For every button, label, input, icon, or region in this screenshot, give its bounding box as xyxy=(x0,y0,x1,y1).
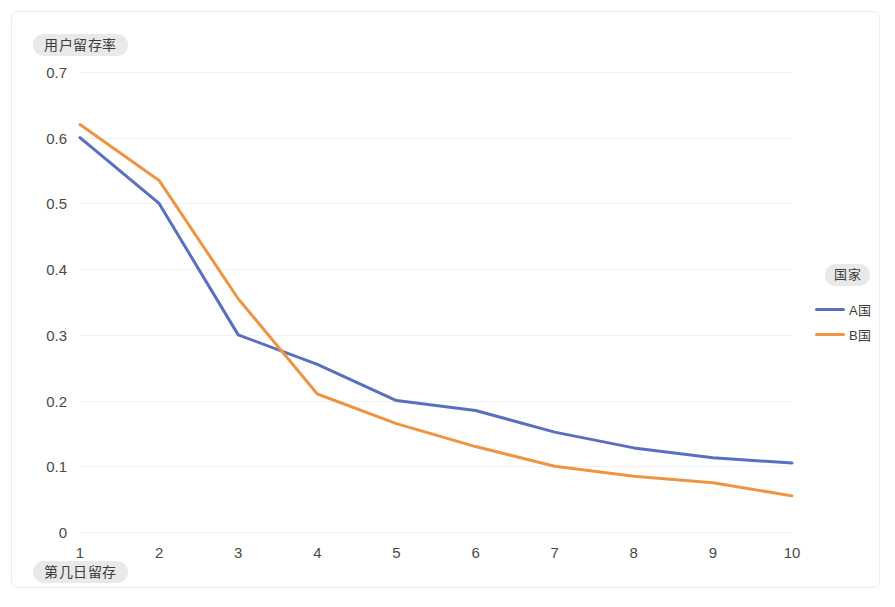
legend-swatch-icon xyxy=(815,308,845,311)
x-tick-label: 10 xyxy=(784,544,801,561)
series-line-B国 xyxy=(80,125,792,496)
series-lines xyxy=(80,72,792,532)
x-tick-label: 4 xyxy=(313,544,321,561)
y-tick-label: 0.1 xyxy=(46,458,67,475)
plot-area: 0.70.60.50.40.30.20.10 12345678910 xyxy=(80,72,792,532)
series-line-A国 xyxy=(80,138,792,463)
x-tick-label: 9 xyxy=(709,544,717,561)
x-tick-label: 1 xyxy=(76,544,84,561)
y-tick-label: 0.4 xyxy=(46,261,67,278)
legend: A国B国 xyxy=(815,298,895,348)
y-tick-label: 0.2 xyxy=(46,392,67,409)
x-tick-label: 2 xyxy=(155,544,163,561)
legend-title: 国家 xyxy=(825,264,870,286)
y-tick-label: 0.3 xyxy=(46,326,67,343)
legend-item-B国[interactable]: B国 xyxy=(815,323,895,345)
x-tick-label: 8 xyxy=(630,544,638,561)
y-tick-label: 0.5 xyxy=(46,195,67,212)
x-tick-label: 3 xyxy=(234,544,242,561)
y-tick-label: 0.7 xyxy=(46,64,67,81)
legend-item-A国[interactable]: A国 xyxy=(815,298,895,320)
x-tick-label: 6 xyxy=(471,544,479,561)
x-axis-title: 第几日留存 xyxy=(33,561,128,583)
legend-item-label: A国 xyxy=(849,300,871,319)
gridline xyxy=(80,532,792,533)
y-axis-title: 用户留存率 xyxy=(33,34,128,56)
x-tick-label: 7 xyxy=(550,544,558,561)
y-tick-label: 0.6 xyxy=(46,129,67,146)
chart-card: 用户留存率 第几日留存 0.70.60.50.40.30.20.10 12345… xyxy=(11,11,880,588)
legend-item-label: B国 xyxy=(849,325,871,344)
legend-swatch-icon xyxy=(815,333,845,336)
y-tick-label: 0 xyxy=(59,524,67,541)
x-tick-label: 5 xyxy=(392,544,400,561)
